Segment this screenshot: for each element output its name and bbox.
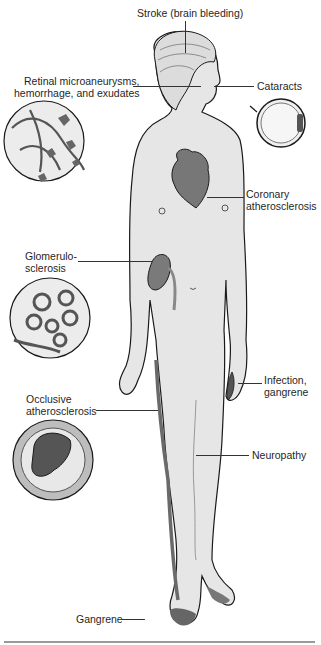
artery-inset-icon	[13, 420, 93, 500]
leader-occlusive	[96, 410, 158, 411]
leader-glomerulo	[78, 261, 152, 262]
label-coronary-line1: Coronary	[246, 188, 317, 200]
label-retinal-line2: hemorrhage, and exudates	[14, 87, 140, 99]
label-gangrene: Gangrene	[76, 613, 123, 625]
leader-retinal	[133, 86, 201, 87]
label-retinal: Retinal microaneurysms, hemorrhage, and …	[14, 75, 140, 99]
label-infection-line2: gangrene	[264, 386, 308, 398]
label-glomerulo: Glomerulo- sclerosis	[25, 250, 77, 274]
leader-stroke	[185, 21, 186, 53]
label-cataracts: Cataracts	[257, 80, 302, 92]
label-stroke: Stroke (brain bleeding)	[137, 7, 243, 19]
leader-cataracts	[214, 86, 254, 87]
label-glomerulo-line2: sclerosis	[25, 262, 77, 274]
female-figure	[119, 32, 246, 624]
label-coronary-line2: atherosclerosis	[246, 200, 317, 212]
label-retinal-line1: Retinal microaneurysms,	[14, 75, 140, 87]
label-infection: Infection, gangrene	[264, 374, 308, 398]
eye-inset-icon	[250, 99, 305, 147]
leader-neuropathy	[196, 455, 249, 456]
label-coronary: Coronary atherosclerosis	[246, 188, 317, 212]
label-neuropathy: Neuropathy	[252, 449, 306, 461]
leader-infection	[238, 383, 262, 384]
retina-inset-icon	[4, 101, 84, 182]
label-glomerulo-line1: Glomerulo-	[25, 250, 77, 262]
label-infection-line1: Infection,	[264, 374, 308, 386]
label-occlusive-line2: atherosclerosis	[26, 405, 97, 417]
glomerulus-inset-icon	[10, 278, 90, 358]
label-occlusive: Occlusive atherosclerosis	[26, 393, 97, 417]
label-occlusive-line1: Occlusive	[26, 393, 97, 405]
leader-gangrene	[121, 619, 145, 620]
bottom-rule	[4, 641, 315, 643]
leader-coronary	[207, 197, 244, 198]
